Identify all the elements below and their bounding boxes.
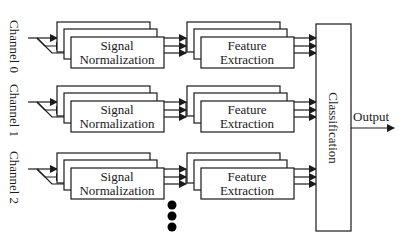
continuation-dots-icon: [168, 201, 177, 232]
classification-block: Classification: [316, 24, 351, 231]
feature-block-line2: Extraction: [220, 183, 275, 198]
channel-label: Channel 1: [7, 84, 22, 137]
channel-row-0: Channel 0 Signal Normalization Featur: [7, 20, 316, 73]
channel-label: Channel 0: [7, 20, 22, 73]
output-label: Output: [353, 109, 390, 124]
feature-block-line2: Extraction: [220, 52, 275, 67]
signal-block-line1: Signal: [100, 38, 134, 53]
to-classifier-arrows: [294, 102, 316, 117]
channel-label: Channel 2: [7, 151, 22, 204]
channel-row-2: Channel 2 Signal Normalization Feature E…: [7, 151, 316, 204]
feature-block-line2: Extraction: [220, 116, 275, 131]
feature-block-line1: Feature: [228, 38, 267, 53]
connector-arrows: [164, 169, 186, 184]
to-classifier-arrows: [294, 38, 316, 53]
to-classifier-arrows: [294, 169, 316, 184]
signal-block-line2: Normalization: [79, 116, 155, 131]
connector-arrows: [164, 102, 186, 117]
pipeline-diagram: Channel 0 Signal Normalization Featur: [0, 0, 405, 244]
connector-arrows: [164, 38, 186, 53]
diagram-svg: Channel 0 Signal Normalization Featur: [0, 0, 405, 244]
feature-block-line1: Feature: [228, 102, 267, 117]
signal-block-line2: Normalization: [79, 183, 155, 198]
feature-block-line1: Feature: [228, 169, 267, 184]
classification-label: Classification: [326, 92, 341, 164]
channel-row-1: Channel 1 Signal Normalization Feature E…: [7, 84, 316, 137]
signal-block-line1: Signal: [100, 102, 134, 117]
signal-block-line2: Normalization: [79, 52, 155, 67]
signal-block-line1: Signal: [100, 169, 134, 184]
